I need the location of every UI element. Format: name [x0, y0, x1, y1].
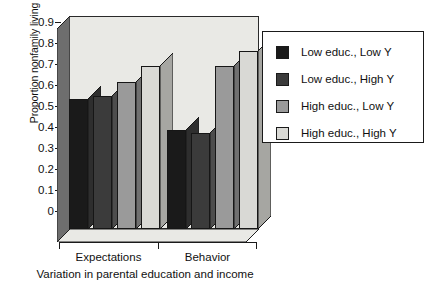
legend-swatch-icon	[276, 127, 289, 140]
legend-item-label: Low educ., High Y	[301, 73, 394, 85]
bar-expectations-low-educ-high-y	[93, 96, 112, 229]
chart-legend: Low educ., Low Y Low educ., High Y High …	[262, 31, 424, 143]
legend-item-high-educ-high-y: High educ., High Y	[276, 124, 397, 142]
bar-front-face	[93, 96, 112, 229]
bar-front-face	[117, 82, 136, 229]
legend-item-label: High educ., High Y	[301, 127, 397, 139]
x-tick-mark	[158, 242, 159, 249]
y-tick-label: 0.3	[14, 143, 54, 155]
x-category-label-behavior: Behavior	[158, 251, 257, 263]
x-category-label-expectations: Expectations	[59, 251, 158, 263]
y-tick-label: 0	[14, 206, 54, 218]
legend-swatch-icon	[276, 73, 289, 86]
legend-item-low-educ-high-y: Low educ., High Y	[276, 70, 394, 88]
legend-item-label: Low educ., Low Y	[301, 46, 392, 58]
bar-front-face	[69, 99, 88, 229]
bar-chart-figure: Proportion nonfamily living 0.9 0.8 0.7 …	[0, 0, 430, 286]
y-tick-label: 0.5	[14, 101, 54, 113]
bar-front-face	[141, 66, 160, 229]
legend-swatch-icon	[276, 100, 289, 113]
bar-front-face	[239, 51, 258, 229]
bar-expectations-low-educ-low-y	[69, 99, 88, 229]
bar-behavior-low-educ-high-y	[191, 133, 210, 229]
bar-behavior-low-educ-low-y	[167, 130, 186, 229]
bar-expectations-high-educ-high-y	[141, 66, 160, 229]
y-tick-label: 0.4	[14, 122, 54, 134]
legend-item-low-educ-low-y: Low educ., Low Y	[276, 43, 392, 61]
legend-swatch-icon	[276, 46, 289, 59]
x-tick-mark	[59, 242, 60, 249]
x-tick-mark	[256, 242, 257, 249]
legend-item-label: High educ., Low Y	[301, 100, 394, 112]
bar-series-group	[57, 16, 259, 242]
y-tick-label: 0.8	[14, 38, 54, 50]
bar-front-face	[191, 133, 210, 229]
bar-behavior-high-educ-high-y	[239, 51, 258, 229]
bar-behavior-high-educ-low-y	[215, 66, 234, 229]
y-axis-ticks: 0.9 0.8 0.7 0.6 0.5 0.4 0.3 0.2 0.1 0	[14, 0, 54, 286]
bar-front-face	[167, 130, 186, 229]
y-tick-label: 0.1	[14, 185, 54, 197]
y-tick-label: 0.7	[14, 59, 54, 71]
x-axis-title: Variation in parental education and inco…	[0, 268, 290, 280]
bar-expectations-high-educ-low-y	[117, 82, 136, 229]
y-tick-label: 0.2	[14, 164, 54, 176]
legend-item-high-educ-low-y: High educ., Low Y	[276, 97, 394, 115]
bar-front-face	[215, 66, 234, 229]
y-tick-label: 0.6	[14, 80, 54, 92]
y-tick-label: 0.9	[14, 17, 54, 29]
